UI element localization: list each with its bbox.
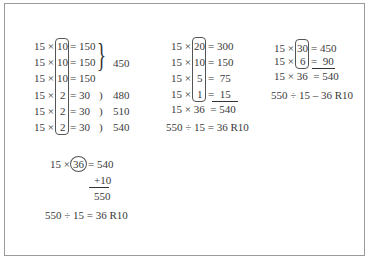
left-row-6-product: = 30 [70,121,90,134]
middle-sum-rule [212,101,238,102]
right-row-1: 15 × [274,42,294,55]
left-row-1-product: = 150 [70,40,95,53]
bottom-result: 550 ÷ 15 = 36 R10 [45,209,128,222]
left-row-3-product: = 150 [70,72,95,85]
left-row-5: 15 × [34,105,54,118]
bottom-row: 15 × [50,158,70,171]
left-row-4-product: = 30 [70,89,90,102]
middle-row-1-product: = 300 [208,40,233,53]
middle-factor-box [192,37,206,102]
right-factor-box [295,39,309,69]
left-row-5-product: = 30 [70,105,90,118]
left-paren-3: ) [99,121,103,134]
middle-row-3-product: = 75 [208,72,231,85]
right-row-2-product: = 90 [311,55,334,68]
left-row-6: 15 × [34,121,54,134]
right-row-1-product: = 450 [311,42,336,55]
left-total-450: 450 [113,57,130,70]
left-paren-1: ) [99,89,103,102]
left-row-2: 15 × [34,56,54,69]
middle-sum-row: 15 × 36 = 540 [171,103,236,116]
middle-row-1: 15 × [171,40,191,53]
bottom-product: = 540 [88,158,113,171]
left-row-3: 15 × [34,72,54,85]
bottom-sum-rule [89,187,109,188]
left-factor-box [55,38,69,135]
left-paren-2: ) [99,105,103,118]
left-total-510: 510 [113,105,130,118]
middle-result: 550 ÷ 15 = 36 R10 [166,121,249,134]
middle-row-4: 15 × [171,88,191,101]
bottom-factor-circle [70,156,87,172]
middle-row-2-product: = 150 [208,56,233,69]
middle-row-2: 15 × [171,56,191,69]
right-sum-row: 15 × 36 = 540 [274,70,339,83]
middle-row-3: 15 × [171,72,191,85]
bottom-add: +10 [94,174,111,187]
left-brace: } [97,38,106,72]
right-sum-rule [312,68,335,69]
right-row-2: 15 × [274,55,294,68]
bottom-sum: 550 [94,190,111,203]
left-total-480: 480 [113,89,130,102]
right-result: 550 ÷ 15 – 36 R10 [271,89,353,102]
middle-row-4-product: = 15 [208,88,231,101]
left-row-2-product: = 150 [70,56,95,69]
left-row-4: 15 × [34,89,54,102]
left-total-540: 540 [113,121,130,134]
left-row-1: 15 × [34,40,54,53]
